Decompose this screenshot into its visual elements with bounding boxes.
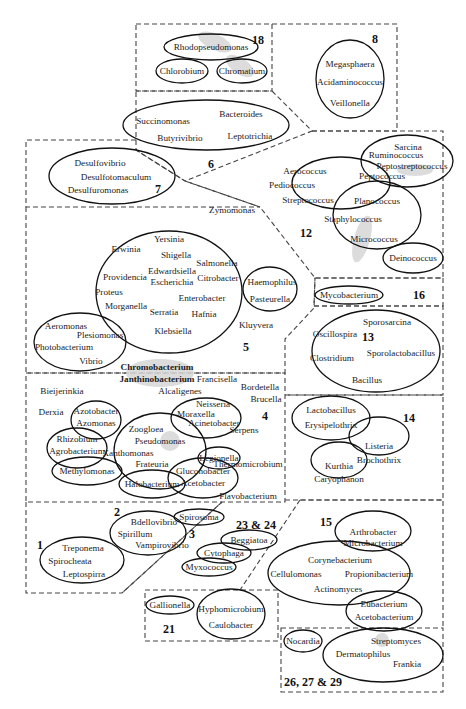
label-hafnia: Hafnia [192, 309, 217, 319]
group-number-21: 21 [163, 622, 175, 636]
label-providencia: Providencia [103, 272, 147, 282]
label-butyrivibrio: Butyrivibrio [157, 133, 203, 143]
label-aerococcus: Aerococcus [283, 166, 327, 176]
label-azomonas: Azomonas [76, 418, 116, 428]
label-lactobacillus: Lactobacillus [306, 405, 356, 415]
label-succinomonas: Succinomonas [136, 116, 190, 126]
label-halobacterium: Halobacterium [125, 479, 180, 489]
label-pseudomonas: Pseudomonas [135, 436, 186, 446]
bacteria-grouping-diagram: Rhodopseudomonas Chlorobium Chromatium 1… [0, 0, 466, 709]
label-plesiomonas: Plesiomonas [77, 330, 124, 340]
group-number-2: 2 [114, 505, 120, 519]
label-azotobacter: Azotobacter [74, 406, 119, 416]
label-neisseria: Neisseria [196, 399, 230, 409]
label-sporolactobacillus: Sporolactobacillus [367, 348, 436, 358]
group-number-18: 18 [252, 33, 264, 47]
label-proteus: Proteus [95, 287, 123, 297]
label-ruminococcus: Ruminococcus [369, 150, 424, 160]
label-desulfovibrio: Desulfovibrio [74, 158, 125, 168]
label-rhizobium: Rhizobium [57, 434, 98, 444]
label-mycobacterium: Mycobacterium [320, 290, 378, 300]
label-acidaminococcus: Acidaminococcus [317, 77, 383, 87]
group-number-12: 12 [300, 226, 312, 240]
group-number-6: 6 [208, 157, 214, 171]
label-leptotrichia: Leptotrichia [228, 131, 273, 141]
label-nocardia: Nocardia [286, 636, 320, 646]
label-zymomonas: Zymomonas [209, 205, 255, 215]
label-corynebacterium: Corynebacterium [308, 555, 372, 565]
label-pediococcus: Pediococcus [269, 180, 315, 190]
label-chromobacterium: Chromobacterium [121, 362, 194, 372]
label-vibrio: Vibrio [79, 356, 103, 366]
label-desulfotomaculum: Desulfotomaculum [81, 172, 151, 182]
label-micrococcus: Micrococcus [350, 234, 398, 244]
group-number-3: 3 [189, 527, 195, 541]
label-alcaligenes: Alcaligenes [158, 386, 202, 396]
label-bdellovibrio: Bdellovibrio [131, 517, 178, 527]
group-number-16: 16 [413, 288, 425, 302]
label-rhodopseudomonas: Rhodopseudomonas [174, 42, 249, 52]
label-bacillus: Bacillus [352, 375, 383, 385]
label-methylomonas: Methylomonas [59, 466, 115, 476]
label-escherichia: Escherichia [151, 277, 194, 287]
label-acetobacter: Acetobacter [181, 478, 225, 488]
label-edwardsiella: Edwardsiella [148, 266, 196, 276]
label-planococcus: Planococcus [354, 196, 400, 206]
label-desulfuromonas: Desulfuromonas [68, 185, 129, 195]
group-number-15: 15 [320, 515, 332, 529]
label-haemophilus: Haemophilus [248, 277, 297, 287]
group-number-5: 5 [243, 340, 249, 354]
label-peptostreptococcus: Peptostreptococcus [377, 161, 448, 171]
label-chromatium: Chromatium [219, 66, 265, 76]
label-pasteurella: Pasteurella [250, 294, 290, 304]
label-brucella: Brucella [250, 394, 281, 404]
label-actinomyces: Actinomyces [314, 584, 363, 594]
label-spirosoma: Spirosoma [179, 512, 218, 522]
group-number-26-27-29: 26, 27 & 29 [284, 675, 342, 689]
label-salmonella: Salmonella [196, 258, 237, 268]
label-veillonella: Veillonella [330, 98, 370, 108]
label-microbacterium: Microbacterium [343, 538, 402, 548]
label-dermatophilus: Dermatophilus [336, 649, 391, 659]
label-leptospirra: Leptospirra [63, 569, 105, 579]
label-serpens: Serpens [229, 425, 259, 435]
label-klebsiella: Klebsiella [154, 326, 191, 336]
label-myxococcus: Myxococcus [186, 562, 233, 572]
label-cellulomonas: Cellulomonas [270, 569, 321, 579]
label-megasphaera: Megasphaera [326, 59, 375, 69]
label-propionibacterium: Propionibacterium [345, 569, 413, 579]
label-cytophaga: Cytophaga [204, 548, 244, 558]
group-number-14: 14 [403, 411, 415, 425]
label-streptococcus: Streptococcus [282, 195, 334, 205]
label-beggiatoa: Beggiatoa [230, 535, 267, 545]
label-frateuria: Frateuria [135, 459, 168, 469]
label-gallionella: Gallionella [150, 600, 191, 610]
label-enterobacter: Enterobacter [179, 293, 226, 303]
group-number-23-24: 23 & 24 [236, 518, 276, 532]
label-xanthomonas: Xanthomonas [102, 448, 153, 458]
label-clostridium: Clostridium [310, 353, 354, 363]
label-derxia: Derxia [39, 407, 64, 417]
label-caryophanon: Caryophanon [314, 474, 364, 484]
label-staphylococcus: Staphylococcus [324, 214, 382, 224]
label-zoogloea: Zoogloea [129, 424, 164, 434]
label-francisella: Francisella [197, 374, 237, 384]
label-shigella: Shigella [161, 250, 191, 260]
group-number-13: 13 [362, 330, 374, 344]
label-flavobacterium: Flavobacterium [219, 491, 277, 501]
label-bieijerinkia: Bieijerinkia [40, 386, 83, 396]
label-listeria: Listeria [365, 441, 393, 451]
label-erysipelothrix: Erysipelothrix [305, 420, 358, 430]
label-serratia: Serratia [150, 307, 179, 317]
label-eubacterium: Eubacterium [361, 599, 408, 609]
label-spirillum: Spirillum [118, 529, 153, 539]
label-vampirovibrio: Vampirovibrio [135, 540, 189, 550]
label-hyphomicrobium: Hyphomicrobium [198, 604, 263, 614]
label-streptomyces: Streptomyces [371, 636, 421, 646]
label-agrobacterium: Agrobacterium [49, 446, 105, 456]
label-erwinia: Erwinia [111, 244, 140, 254]
label-bacteroides: Bacteroides [219, 109, 263, 119]
label-citrobacter: Citrobacter [197, 273, 238, 283]
label-yersinia: Yersinia [154, 234, 184, 244]
label-acetobacterium: Acetobacterium [355, 612, 414, 622]
